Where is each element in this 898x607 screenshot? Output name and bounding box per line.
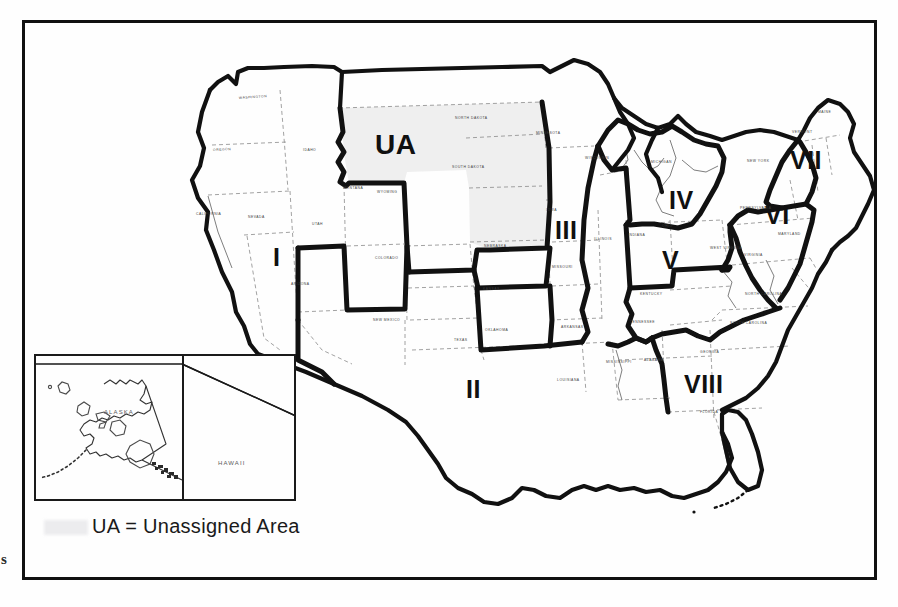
florida-keys-dotted xyxy=(714,490,748,508)
legend-scan-smudge xyxy=(44,520,88,535)
alaska-panhandle-islands xyxy=(152,462,178,479)
state-name-tennessee: TENNESSEE xyxy=(630,320,655,324)
unassigned-area-shading xyxy=(339,102,550,250)
state-name-virginia: VIRGINIA xyxy=(744,253,763,257)
region-label-5: V xyxy=(662,248,679,273)
state-name-colorado: COLORADO xyxy=(375,256,398,260)
state-name-indiana: INDIANA xyxy=(628,233,645,237)
state-name-california: CALIFORNIA xyxy=(196,212,221,216)
state-name-kansas: KANSAS xyxy=(483,287,500,291)
state-name-kentucky: KENTUCKY xyxy=(640,292,662,296)
state-name-utah: UTAH xyxy=(312,222,323,226)
state-name-wyoming: WYOMING xyxy=(377,190,397,194)
state-name-alabama: ALABAMA xyxy=(644,358,664,362)
state-name-maine: MAINE xyxy=(818,110,831,114)
state-name-maryland: MARYLAND xyxy=(778,232,801,236)
state-name-missouri: MISSOURI xyxy=(552,265,573,269)
state-name-florida: FLORIDA xyxy=(700,410,718,414)
state-name-minnesota: MINNESOTA xyxy=(536,131,560,135)
alaska-outline xyxy=(80,380,182,480)
state-name-ohio: OHIO xyxy=(662,224,673,228)
state-name-wisconsin: WISCONSIN xyxy=(585,156,609,160)
scanned-page: s xyxy=(0,0,898,607)
state-name-north-carolina: NORTH CAROLINA xyxy=(745,292,782,296)
legend-unassigned-area: UA = Unassigned Area xyxy=(92,515,300,538)
state-name-arizona: ARIZONA xyxy=(291,282,310,286)
state-name-idaho: IDAHO xyxy=(303,148,316,152)
aleutian-islands-dotted xyxy=(40,450,86,478)
region-label-8: VIII xyxy=(684,372,724,397)
state-name-louisiana: LOUISIANA xyxy=(557,378,580,382)
state-name-georgia: GEORGIA xyxy=(700,350,719,354)
margin-artifact-character: s xyxy=(1,552,7,567)
state-name-north-dakota: NORTH DAKOTA xyxy=(455,116,488,120)
state-name-mississippi: MISSISSIPPI xyxy=(606,360,632,364)
state-name-west-virginia: WEST VIRGINIA xyxy=(710,246,742,250)
region-label-ua: UA xyxy=(375,131,416,159)
key-west-dot xyxy=(692,510,695,513)
state-name-new-mexico: NEW MEXICO xyxy=(373,318,400,322)
alaska-label: ALASKA xyxy=(104,409,134,415)
state-name-oklahoma: OKLAHOMA xyxy=(485,328,508,332)
state-name-illinois: ILLINOIS xyxy=(594,237,612,241)
state-name-new-york: NEW YORK xyxy=(747,159,769,163)
state-name-texas: TEXAS xyxy=(454,338,468,342)
state-name-michigan: MICHIGAN xyxy=(651,160,672,164)
region-label-4: IV xyxy=(669,188,694,213)
region-label-2: II xyxy=(466,377,481,402)
state-name-pennsylvania: PENNSYLVANIA xyxy=(740,206,772,210)
state-name-arkansas: ARKANSAS xyxy=(561,325,583,329)
state-name-iowa: IOWA xyxy=(546,208,557,212)
region-label-7: VII xyxy=(790,148,822,173)
state-name-south-carolina: SOUTH CAROLINA xyxy=(730,321,767,325)
state-name-south-dakota: SOUTH DAKOTA xyxy=(452,165,485,169)
region-label-1: I xyxy=(273,245,280,270)
state-name-nevada: NEVADA xyxy=(248,215,265,219)
hawaii-label: HAWAII xyxy=(218,460,246,466)
state-name-montana: MONTANA xyxy=(343,186,363,190)
region-label-3: III xyxy=(555,218,577,243)
state-name-nebraska: NEBRASKA xyxy=(484,244,506,248)
inset-diagonal-edges xyxy=(36,364,296,416)
state-name-vermont: VERMONT xyxy=(792,130,812,134)
inset-map-drawing xyxy=(34,354,296,501)
